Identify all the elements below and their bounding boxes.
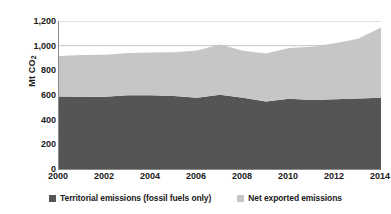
x-axis-tick-labels: 20002002200420062008201020122014 bbox=[58, 171, 380, 187]
legend-label-0: Territorial emissions (fossil fuels only… bbox=[60, 193, 211, 203]
chart-legend: Territorial emissions (fossil fuels only… bbox=[0, 193, 391, 203]
plot-svg bbox=[59, 21, 381, 169]
x-axis-tick-2002: 2002 bbox=[94, 171, 114, 181]
x-axis-tick-2004: 2004 bbox=[140, 171, 160, 181]
x-axis-tick-2006: 2006 bbox=[186, 171, 206, 181]
legend-swatch-icon-1 bbox=[237, 195, 244, 202]
legend-label-1: Net exported emissions bbox=[248, 193, 342, 203]
legend-item-0[interactable]: Territorial emissions (fossil fuels only… bbox=[49, 193, 211, 203]
y-axis-tick-1200: 1,200 bbox=[33, 16, 56, 26]
gridlines bbox=[59, 21, 381, 46]
area-series-territorial-emissions-fossil-fuels-only bbox=[59, 95, 381, 169]
y-axis-tick-800: 800 bbox=[41, 65, 56, 75]
legend-swatch-icon-0 bbox=[49, 195, 56, 202]
x-axis-tick-2008: 2008 bbox=[232, 171, 252, 181]
stacked-area-chart: Mt CO2 02004006008001,0001,200 200020022… bbox=[0, 0, 391, 214]
x-axis-tick-2014: 2014 bbox=[370, 171, 390, 181]
x-axis-tick-2010: 2010 bbox=[278, 171, 298, 181]
y-axis-tick-600: 600 bbox=[41, 90, 56, 100]
area-series-net-exported-emissions bbox=[59, 27, 381, 101]
y-axis-tick-labels: 02004006008001,0001,200 bbox=[14, 0, 56, 214]
y-axis-tick-200: 200 bbox=[41, 139, 56, 149]
plot-area bbox=[58, 21, 381, 170]
series-areas bbox=[59, 27, 381, 169]
x-axis-tick-2012: 2012 bbox=[324, 171, 344, 181]
legend-item-1[interactable]: Net exported emissions bbox=[237, 193, 342, 203]
x-axis-tick-2000: 2000 bbox=[48, 171, 68, 181]
y-axis-tick-400: 400 bbox=[41, 115, 56, 125]
y-axis-tick-1000: 1,000 bbox=[33, 41, 56, 51]
